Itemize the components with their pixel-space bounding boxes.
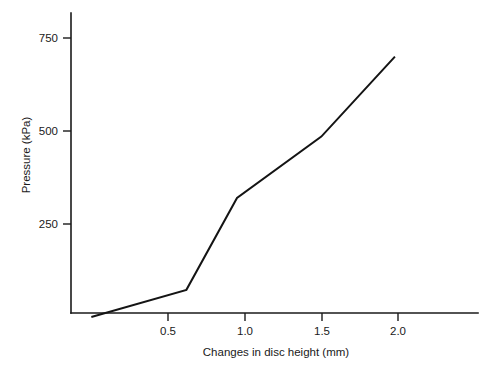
line-chart-canvas: 750 500 250 0.5 1.0 1.5 2.0 Changes in d… — [0, 0, 491, 367]
data-series-line — [91, 57, 395, 317]
x-axis-title: Changes in disc height (mm) — [203, 346, 350, 358]
x-tick-label-1-0: 1.0 — [237, 325, 253, 337]
y-tick-label-500: 500 — [39, 125, 58, 137]
y-tick-label-750: 750 — [39, 32, 58, 44]
y-axis-title: Pressure (kPa) — [20, 116, 32, 193]
y-tick-label-250: 250 — [39, 218, 58, 230]
x-tick-label-2-0: 2.0 — [390, 325, 406, 337]
chart-figure: 750 500 250 0.5 1.0 1.5 2.0 Changes in d… — [0, 0, 491, 367]
x-tick-label-0-5: 0.5 — [160, 325, 176, 337]
y-axis-ticks — [63, 38, 71, 224]
x-axis-ticks — [168, 313, 398, 321]
x-tick-label-1-5: 1.5 — [314, 325, 330, 337]
